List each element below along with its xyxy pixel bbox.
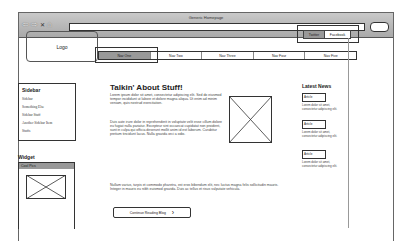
widget: Cool Pics	[18, 162, 75, 229]
facebook-button[interactable]: Facebook	[324, 30, 351, 39]
search-box[interactable]	[370, 22, 389, 32]
news-item-thumb[interactable]: Article	[302, 93, 326, 102]
news-item-thumb[interactable]: Article	[302, 120, 326, 129]
news-item-text: Lorem dolor sit amet, consectetur adipis…	[302, 130, 346, 138]
nav-item-four[interactable]: Nav Four	[254, 52, 306, 59]
news-item-thumb[interactable]: Article	[302, 150, 326, 159]
page-edge-divider	[348, 38, 349, 228]
forward-icon[interactable]: ⇨	[31, 21, 38, 29]
twitter-button[interactable]: Twitter	[303, 30, 325, 39]
continue-reading-label: Continue Reading Blog	[130, 211, 166, 215]
chevron-right-icon: ›	[172, 209, 174, 216]
sidebar-link[interactable]: Something Else	[22, 105, 72, 109]
image-placeholder-icon	[26, 175, 66, 199]
sidebar-title: Sidebar	[22, 87, 72, 93]
social-links: Twitter Facebook	[297, 25, 359, 43]
home-icon[interactable]: ⌂	[47, 21, 52, 29]
news-item[interactable]: Article Lorem dolor sit amet, consectetu…	[302, 150, 346, 168]
nav-item-two[interactable]: Nav Two	[151, 52, 203, 59]
widget-title: Widget	[18, 154, 35, 160]
news-item[interactable]: Article Lorem dolor sit amet, consectetu…	[302, 120, 346, 138]
widget-header: Cool Pics	[19, 163, 74, 169]
sidebar-link[interactable]: Sidebar Stuff	[22, 113, 72, 117]
news-item-text: Lorem dolor sit amet, consectetur adipis…	[302, 103, 346, 111]
main-title: Talkin' About Stuff!	[110, 83, 183, 92]
sidebar-link[interactable]: Stuffs	[22, 129, 72, 133]
image-placeholder-icon	[229, 96, 272, 143]
paragraph: Nullam varius, turpis et commodo pharetr…	[110, 183, 280, 191]
sidebar-link[interactable]: Sidebar	[22, 97, 72, 101]
news-item-text: Lorem dolor sit amet, consectetur adipis…	[302, 160, 346, 168]
back-icon[interactable]: ⇦	[22, 21, 29, 29]
news-item[interactable]: Article Lorem dolor sit amet, consectetu…	[302, 93, 346, 111]
logo[interactable]: Logo	[26, 31, 98, 62]
sidebar-link[interactable]: Another Sidebar Item	[22, 121, 72, 125]
reload-icon[interactable]: ✕	[40, 21, 45, 29]
continue-reading-button[interactable]: Continue Reading Blog ›	[113, 207, 191, 218]
nav-item-three[interactable]: Nav Three	[202, 52, 254, 59]
paragraph: Duis aute irure dolor in reprehenderit i…	[110, 120, 225, 136]
sidebar: Sidebar Sidebar Something Else Sidebar S…	[18, 83, 76, 141]
paragraph: Lorem ipsum dolor sit amet, consectetur …	[110, 93, 225, 105]
window-title: Generic Homepage	[19, 15, 393, 20]
news-title: Latest News	[302, 83, 331, 89]
active-nav-highlight	[95, 47, 158, 63]
